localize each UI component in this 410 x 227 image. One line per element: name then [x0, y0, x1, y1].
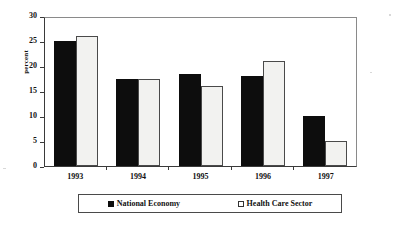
bar [201, 86, 223, 166]
x-axis-tick-label: 1993 [44, 172, 107, 181]
bar-groups [45, 18, 356, 166]
bar [179, 74, 201, 167]
bar [303, 116, 325, 166]
bar-group [169, 18, 231, 166]
bar [116, 79, 138, 167]
x-axis-tick-mark [231, 166, 232, 170]
legend-label: Health Care Sector [247, 199, 313, 208]
y-axis-tick-label: 30 [29, 11, 37, 20]
bar-group [232, 18, 294, 166]
scan-artifact [3, 168, 6, 169]
legend-item: Health Care Sector [238, 199, 313, 208]
bar [76, 36, 98, 166]
x-axis-tick-mark [293, 166, 294, 170]
y-axis-tick-label: 25 [29, 36, 37, 45]
bar-group [294, 18, 356, 166]
open-square-icon [238, 201, 244, 207]
bar-chart: percent 302520151050 1993199419951996199… [0, 0, 410, 227]
x-axis-tick-mark [106, 166, 107, 170]
x-axis-tick-mark [168, 166, 169, 170]
filled-square-icon [108, 201, 114, 207]
y-axis-title: percent [22, 50, 30, 110]
bar [54, 41, 76, 166]
y-axis-tick-mark [40, 167, 44, 168]
bar [325, 141, 347, 166]
bar-group [45, 18, 107, 166]
y-axis-tick-label: 10 [29, 111, 37, 120]
bar [138, 79, 160, 167]
bar-group [107, 18, 169, 166]
y-axis-tick-label: 20 [29, 61, 37, 70]
chart-legend: National EconomyHealth Care Sector [78, 194, 342, 213]
x-axis-tick-label: 1995 [169, 172, 232, 181]
plot-area [44, 17, 357, 167]
y-axis-tick-label: 5 [33, 136, 37, 145]
x-axis-tick-label: 1997 [294, 172, 357, 181]
x-axis-tick-label: 1996 [232, 172, 295, 181]
x-axis-tick-label: 1994 [107, 172, 170, 181]
bar [241, 76, 263, 166]
scan-artifact [389, 14, 391, 16]
scan-artifact [370, 72, 372, 73]
y-axis-tick-label: 0 [33, 161, 37, 170]
y-axis-tick-label: 15 [29, 86, 37, 95]
x-axis-labels: 19931994199519961997 [44, 172, 357, 181]
legend-item: National Economy [108, 199, 180, 208]
bar [263, 61, 285, 166]
legend-label: National Economy [117, 199, 180, 208]
